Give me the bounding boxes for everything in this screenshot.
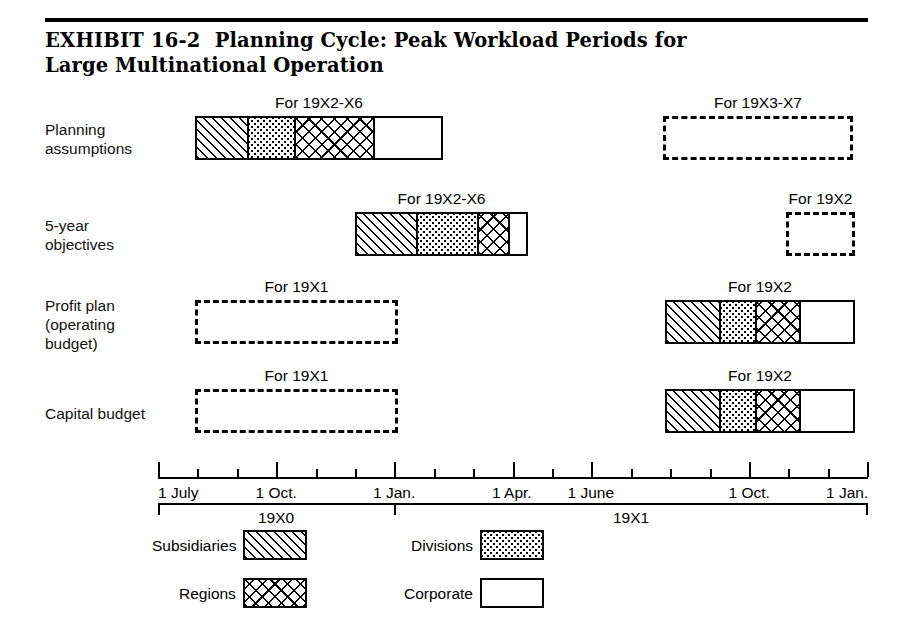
axis-minor-tick [197,469,199,477]
axis-minor-tick [316,469,318,477]
bar-segment-divisions [247,118,294,158]
axis-minor-tick [788,469,790,477]
bar-segment-divisions [416,214,478,254]
axis-major-tick [158,462,160,477]
year-label: 19X0 [258,509,294,527]
bar-segment-subsidiaries [667,391,719,431]
axis-minor-tick [473,469,475,477]
year-bracket-line [158,503,868,505]
planned-period-bar [663,116,853,160]
axis-major-tick [867,462,869,477]
axis-minor-tick [552,469,554,477]
workload-bar [665,389,855,433]
bar-segment-divisions [719,302,755,342]
axis-tick-label: 1 Jan. [373,484,415,502]
bar-caption: For 19X1 [195,367,398,385]
axis-major-tick [749,462,751,477]
bar-segment-regions [477,214,508,254]
legend-label-subsidiaries: Subsidiaries [152,537,236,555]
axis-major-tick [591,462,593,477]
axis-tick-label: 1 Oct. [729,484,770,502]
year-label: 19X1 [613,509,649,527]
workload-bar [665,300,855,344]
bar-caption: For 19X2 [786,190,855,208]
axis-major-tick [276,462,278,477]
bar-segment-regions [294,118,373,158]
legend-swatch-divisions [480,530,544,560]
legend-label-divisions: Divisions [411,537,473,555]
legend-swatch-subsidiaries [243,530,307,560]
row-label-line: budget) [45,334,115,353]
bar-segment-subsidiaries [357,214,416,254]
axis-tick-label: 1 June [568,484,615,502]
year-bracket-tick [866,503,868,515]
axis-minor-tick [670,469,672,477]
bar-segment-subsidiaries [667,302,719,342]
bar-segment-corporate [373,118,441,158]
bar-caption: For 19X2-X6 [355,190,528,208]
bar-caption: For 19X2 [665,278,855,296]
row-label-line: assumptions [45,139,132,158]
workload-bar [195,116,443,160]
bar-caption: For 19X2 [665,367,855,385]
row-label: Profit plan(operatingbudget) [45,296,115,353]
bar-caption: For 19X2-X6 [195,94,443,112]
row-label-line: Capital budget [45,404,145,423]
axis-minor-tick [434,469,436,477]
bar-segment-regions [755,302,799,342]
year-bracket-tick [158,503,160,515]
row-label-line: objectives [45,235,114,254]
axis-minor-tick [631,469,633,477]
bar-segment-regions [755,391,799,431]
legend-label-corporate: Corporate [404,585,473,603]
bar-segment-corporate [799,302,853,342]
axis-line [158,477,868,479]
row-label-line: Planning [45,120,132,139]
axis-minor-tick [710,469,712,477]
planned-period-bar [786,212,855,256]
legend-swatch-corporate [480,578,544,608]
axis-tick-label: 1 Oct. [256,484,297,502]
exhibit-figure: EXHIBIT 16-2Planning Cycle: Peak Workloa… [0,0,914,628]
row-label-line: 5-year [45,216,114,235]
axis-tick-label: 1 Jan. [826,484,868,502]
bar-segment-divisions [719,391,755,431]
bar-segment-corporate [799,391,853,431]
workload-bar [355,212,528,256]
axis-tick-label: 1 July [158,484,199,502]
row-label: 5-yearobjectives [45,216,114,254]
year-bracket-tick [394,503,396,515]
bar-caption: For 19X1 [195,278,398,296]
planned-period-bar [195,300,398,344]
bar-segment-subsidiaries [197,118,247,158]
exhibit-title: EXHIBIT 16-2Planning Cycle: Peak Workloa… [45,28,745,78]
legend-label-regions: Regions [179,585,236,603]
legend-swatch-regions [243,578,307,608]
planned-period-bar [195,389,398,433]
row-label-line: (operating [45,315,115,334]
axis-minor-tick [828,469,830,477]
row-label: Planningassumptions [45,120,132,158]
axis-major-tick [513,462,515,477]
bar-segment-corporate [508,214,526,254]
axis-major-tick [394,462,396,477]
axis-minor-tick [237,469,239,477]
exhibit-number: EXHIBIT 16-2 [45,29,201,52]
row-label: Capital budget [45,404,145,423]
top-rule [45,18,868,22]
axis-tick-label: 1 Apr. [492,484,532,502]
row-label-line: Profit plan [45,296,115,315]
axis-minor-tick [355,469,357,477]
bar-caption: For 19X3-X7 [663,94,853,112]
